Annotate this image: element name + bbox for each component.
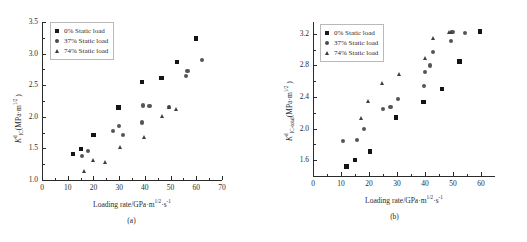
data-point [91, 158, 95, 162]
figure-container: 0102030405060701.01.52.02.53.03.50% Stat… [0, 0, 527, 242]
x-axis [313, 176, 495, 177]
data-point [159, 76, 163, 80]
y-tick [42, 148, 46, 149]
y-minor-tick [313, 81, 316, 82]
data-point [82, 169, 86, 173]
y-tick [42, 22, 46, 23]
x-minor-tick [158, 178, 159, 181]
x-axis-label: Loading rate/GPa·m1/2·s-1 [344, 194, 464, 205]
circle-marker-icon [325, 41, 329, 45]
x-minor-tick [327, 174, 328, 177]
y-minor-tick [313, 144, 316, 145]
data-point [147, 104, 151, 108]
x-minor-tick [355, 174, 356, 177]
data-point [396, 97, 400, 101]
y-minor-tick [313, 50, 316, 51]
y-minor-tick [42, 164, 45, 165]
x-tick-label: 70 [210, 183, 234, 192]
legend-label: 74% Static load [334, 49, 378, 57]
legend-item[interactable]: 37% Static load [325, 38, 378, 48]
y-axis-label: KdIC-total(MPa·m1/2 ) [283, 81, 295, 141]
y-axis-label: KdIC(MPa·m1/2 ) [12, 94, 24, 143]
y-tick [313, 160, 317, 161]
x-tick-label: 10 [329, 179, 353, 188]
legend-item[interactable]: 37% Static load [55, 36, 108, 46]
data-point [341, 139, 345, 143]
legend-label: 0% Static load [64, 27, 105, 35]
data-point [362, 127, 366, 131]
y-tick [42, 85, 46, 86]
y-minor-tick [313, 113, 316, 114]
x-tick [196, 176, 197, 180]
data-point [431, 36, 435, 40]
x-tick [397, 172, 398, 176]
data-point [121, 133, 125, 137]
data-point [142, 135, 146, 139]
x-tick-label: 60 [184, 183, 208, 192]
square-marker-icon [55, 29, 59, 33]
data-point [175, 60, 179, 64]
x-minor-tick [132, 178, 133, 181]
x-minor-tick [55, 178, 56, 181]
y-tick [313, 129, 317, 130]
x-tick-label: 60 [469, 179, 493, 188]
data-point [140, 120, 144, 124]
x-tick [453, 172, 454, 176]
data-point [355, 138, 359, 142]
square-marker-icon [325, 31, 329, 35]
y-tick-label: 3.2 [289, 29, 309, 38]
x-tick-label: 20 [357, 179, 381, 188]
data-point [422, 84, 426, 88]
y-tick [313, 97, 317, 98]
y-minor-tick [42, 133, 45, 134]
data-point [394, 115, 398, 119]
legend-label: 74% Static load [64, 47, 108, 55]
x-minor-tick [209, 178, 210, 181]
panel-caption: (a) [0, 216, 263, 225]
data-point [91, 133, 95, 137]
y-tick [313, 34, 317, 35]
data-point [194, 36, 198, 40]
legend: 0% Static load37% Static load74% Static … [320, 24, 384, 62]
data-point [423, 56, 427, 60]
data-point [380, 81, 384, 85]
legend-item[interactable]: 74% Static load [325, 48, 378, 58]
x-minor-tick [383, 174, 384, 177]
x-tick-label: 50 [441, 179, 465, 188]
x-tick [119, 176, 120, 180]
y-tick [42, 54, 46, 55]
data-point [463, 31, 467, 35]
data-point [421, 100, 425, 104]
x-tick [313, 172, 314, 176]
data-point [344, 164, 348, 168]
x-tick [222, 176, 223, 180]
legend-item[interactable]: 0% Static load [325, 28, 378, 38]
circle-marker-icon [55, 39, 59, 43]
data-point [116, 105, 120, 109]
y-tick-label: 1.5 [18, 143, 38, 152]
x-minor-tick [411, 174, 412, 177]
data-point [440, 87, 444, 91]
data-point [80, 154, 84, 158]
data-point [423, 70, 427, 74]
x-tick-label: 0 [301, 179, 325, 188]
y-minor-tick [42, 69, 45, 70]
data-point [381, 107, 385, 111]
legend-label: 0% Static load [334, 29, 375, 37]
x-tick [68, 176, 69, 180]
y-tick-label: 1.6 [289, 155, 309, 164]
x-tick [93, 176, 94, 180]
legend-item[interactable]: 0% Static load [55, 26, 108, 36]
x-tick-label: 30 [107, 183, 131, 192]
x-minor-tick [106, 178, 107, 181]
x-tick [425, 172, 426, 176]
panel-b: 01020304050601.62.02.42.83.20% Static lo… [263, 0, 526, 242]
x-tick-label: 10 [56, 183, 80, 192]
y-tick [313, 65, 317, 66]
data-point [111, 129, 115, 133]
y-axis [313, 22, 314, 176]
data-point [140, 80, 144, 84]
x-tick [341, 172, 342, 176]
data-point [174, 107, 178, 111]
legend-item[interactable]: 74% Static load [55, 46, 108, 56]
